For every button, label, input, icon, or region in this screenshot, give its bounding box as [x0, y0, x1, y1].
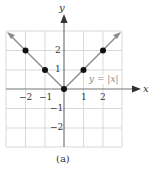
x-tick-2: 2: [100, 93, 106, 102]
y-tick-m1: −1: [50, 104, 63, 113]
x-tick-1: 1: [81, 93, 87, 102]
point-0-0: [61, 86, 67, 92]
point-2-2: [100, 48, 106, 54]
y-tick-2: 2: [55, 46, 61, 55]
x-axis-label: x: [143, 84, 149, 94]
x-tick-m1: −1: [39, 93, 52, 102]
absolute-value-graph: [0, 0, 152, 169]
equation-label: y = |x|: [88, 75, 120, 84]
point-m1-1: [42, 67, 48, 73]
x-axis-arrow-icon: [132, 86, 141, 93]
point-1-1: [81, 67, 87, 73]
y-axis-arrow-icon: [61, 14, 68, 23]
y-tick-1: 1: [55, 65, 61, 74]
point-m2-2: [23, 48, 29, 54]
y-tick-m2: −2: [50, 123, 63, 132]
y-axis-label: y: [59, 3, 65, 13]
x-tick-m2: −2: [19, 93, 32, 102]
figure-caption: (a): [56, 154, 70, 164]
